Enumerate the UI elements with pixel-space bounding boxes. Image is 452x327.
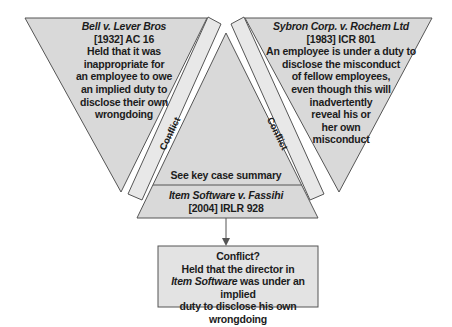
left-case-citation: [1932] AC 16 <box>60 33 188 46</box>
right-case-holding-5: inadvertently <box>266 96 416 109</box>
arrow-head-icon <box>222 238 230 246</box>
right-case-holding-6: reveal his or <box>266 108 416 121</box>
center-case-citation: [2004] IRLR 928 <box>150 202 302 215</box>
right-case-holding-1: An employee is under a duty to <box>266 45 416 58</box>
right-case-name: Sybron Corp. v. Rochem Ltd <box>266 20 416 33</box>
left-case-name: Bell v. Lever Bros <box>60 20 188 33</box>
result-line-2: Item Software was under an implied <box>158 275 318 300</box>
right-case-text: Sybron Corp. v. Rochem Ltd [1983] ICR 80… <box>266 20 416 146</box>
right-case-holding-4: even though this will <box>266 83 416 96</box>
result-title: Conflict? <box>158 250 318 263</box>
left-case-holding-2: inappropriate for <box>60 58 188 71</box>
result-line-1: Held that the director in <box>158 263 318 276</box>
left-case-holding-3: an employee to owe <box>60 70 188 83</box>
right-case-holding-3: of fellow employees, <box>266 70 416 83</box>
result-line-3: duty to disclose his own wrongdoing <box>158 300 318 325</box>
right-case-holding-7: her own <box>266 121 416 134</box>
center-case-text: Item Software v. Fassihi [2004] IRLR 928 <box>150 189 302 214</box>
left-case-text: Bell v. Lever Bros [1932] AC 16 Held tha… <box>60 20 188 121</box>
center-case-name: Item Software v. Fassihi <box>150 189 302 202</box>
left-case-holding-5: disclose their own <box>60 96 188 109</box>
left-case-holding-4: an implied duty to <box>60 83 188 96</box>
right-case-holding-2: disclose the misconduct <box>266 58 416 71</box>
left-case-holding-6: wrongdoing <box>60 108 188 121</box>
left-case-holding-1: Held that it was <box>60 45 188 58</box>
right-case-citation: [1983] ICR 801 <box>266 33 416 46</box>
center-summary-label: See key case summary <box>160 169 292 182</box>
result-box-text: Conflict? Held that the director in Item… <box>158 250 318 326</box>
